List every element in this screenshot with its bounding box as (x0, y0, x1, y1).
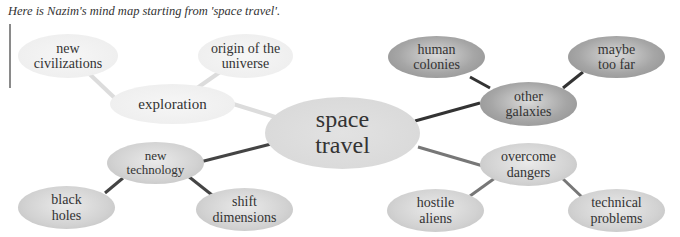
node-technical-problems: technical problems (568, 189, 665, 232)
node-origin-of-the-universe: origin of the universe (198, 34, 293, 78)
node-hostile-aliens: hostile aliens (387, 189, 484, 232)
node-new-technology: new technology (107, 142, 204, 184)
node-new-civilizations: new civilizations (18, 34, 118, 78)
node-black-holes: black holes (18, 186, 115, 229)
node-shift-dimensions: shift dimensions (196, 188, 293, 231)
node-maybe-too-far: maybe too far (568, 36, 665, 78)
node-other-galaxies: other galaxies (480, 82, 577, 126)
node-overcome-dangers: overcome dangers (480, 143, 577, 186)
node-human-colonies: human colonies (388, 36, 485, 78)
node-exploration: exploration (110, 84, 235, 124)
center-node: space travel (265, 97, 420, 169)
